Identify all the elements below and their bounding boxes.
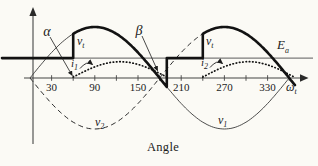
x-tick-label-210: 210 xyxy=(173,82,190,93)
vt-label-1: vt xyxy=(77,35,85,47)
i2-label: i2 xyxy=(201,57,208,68)
ea-label: Ea xyxy=(277,38,289,51)
x-axis-title: Angle xyxy=(147,141,179,154)
x-tick-label-150: 150 xyxy=(130,82,147,93)
waveform-figure: α β vt vt Ea i1 i2 v2 v1 30 90 150 210 2… xyxy=(0,0,318,166)
v1-label: v1 xyxy=(218,114,227,126)
x-axis-arrow-icon xyxy=(300,74,309,82)
x-tick-label-330: 330 xyxy=(259,82,276,93)
v2-label: v2 xyxy=(95,116,104,128)
i2-current-curve-dotted xyxy=(203,62,294,77)
beta-label: β xyxy=(136,24,143,38)
x-axis-unit-label: ωt xyxy=(286,81,297,93)
i1-label: i1 xyxy=(71,58,78,69)
x-tick-label-270: 270 xyxy=(216,82,233,93)
i2-pointer-arrow xyxy=(210,62,223,68)
x-tick-label-30: 30 xyxy=(46,82,57,93)
y-axis-arrow-icon xyxy=(29,7,36,16)
alpha-label: α xyxy=(43,25,50,39)
vt-label-2: vt xyxy=(206,35,214,47)
x-tick-label-90: 90 xyxy=(89,82,100,93)
